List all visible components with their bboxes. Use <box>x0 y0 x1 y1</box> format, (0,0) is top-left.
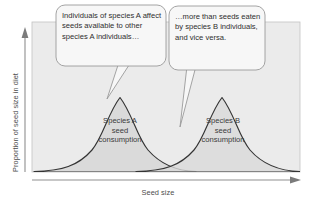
species-a-label-line2: seed <box>82 126 158 136</box>
species-a-label-line1: Species A <box>82 116 158 126</box>
species-b-label: Species B seed consumption <box>184 116 262 145</box>
y-axis-label: Proportion of seed size in diet <box>11 12 20 172</box>
species-b-label-line3: consumption <box>184 135 262 145</box>
callout-right-text: …more than seeds eaten by species B indi… <box>175 12 261 43</box>
y-axis-arrow-icon <box>22 27 29 172</box>
species-b-label-line2: seed <box>184 126 262 136</box>
species-b-label-line1: Species B <box>184 116 262 126</box>
species-a-label: Species A seed consumption <box>82 116 158 145</box>
callout-left-text: Individuals of species A affect seeds av… <box>62 11 162 42</box>
x-axis-arrow-icon <box>32 177 301 184</box>
resource-utilization-diagram: Proportion of seed size in diet Seed siz… <box>0 0 316 200</box>
x-axis-label: Seed size <box>0 188 316 197</box>
species-a-label-line3: consumption <box>82 135 158 145</box>
